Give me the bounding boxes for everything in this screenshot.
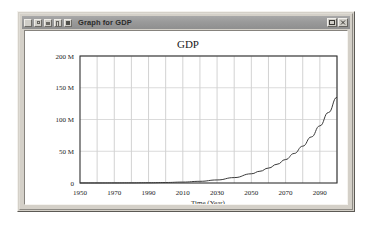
- x-tick-label: 2050: [244, 189, 258, 197]
- x-tick-label: 2090: [313, 189, 328, 197]
- close-icon: [339, 19, 347, 26]
- copy-icon[interactable]: [54, 19, 62, 27]
- y-tick-label: 150 M: [56, 84, 75, 92]
- chart-title: GDP: [177, 38, 199, 50]
- y-tick-label: 200 M: [56, 53, 75, 61]
- minimize-icon[interactable]: [24, 19, 32, 27]
- close-button[interactable]: [338, 18, 348, 27]
- maximize-button[interactable]: [327, 18, 337, 27]
- save-icon[interactable]: [64, 19, 72, 27]
- horizontal-gridlines: [80, 56, 337, 151]
- graph-canvas: GDP 050 M100 M150 M200 M 195019701990201…: [24, 30, 348, 205]
- x-tick-label: 2010: [176, 189, 191, 197]
- window-inner-frame: Graph for GDP GDP: [19, 13, 353, 210]
- gdp-graph: GDP 050 M100 M150 M200 M 195019701990201…: [25, 31, 348, 205]
- y-tick-label: 0: [71, 180, 75, 188]
- y-tick-label: 100 M: [56, 116, 75, 124]
- y-tick-label: 50 M: [59, 148, 75, 156]
- window-controls: [327, 18, 350, 27]
- x-axis-title: Time (Year): [191, 199, 226, 205]
- x-tick-label: 1950: [73, 189, 88, 197]
- maximize-icon: [328, 19, 336, 26]
- x-tick-label: 2070: [279, 189, 294, 197]
- print-icon[interactable]: [44, 19, 52, 27]
- graph-window: Graph for GDP GDP: [17, 11, 355, 212]
- window-title: Graph for GDP: [78, 18, 132, 27]
- title-bar-toolbar: [22, 19, 72, 27]
- series-line-gdp: [80, 97, 337, 183]
- x-tick-label: 1990: [142, 189, 157, 197]
- x-axis-tick-labels: 19501970199020102030205020702090: [73, 189, 327, 197]
- restore-icon[interactable]: [34, 19, 42, 27]
- title-bar[interactable]: Graph for GDP: [22, 16, 350, 29]
- x-tick-label: 2030: [210, 189, 225, 197]
- y-axis-tick-labels: 050 M100 M150 M200 M: [56, 53, 75, 188]
- x-tick-label: 1970: [107, 189, 122, 197]
